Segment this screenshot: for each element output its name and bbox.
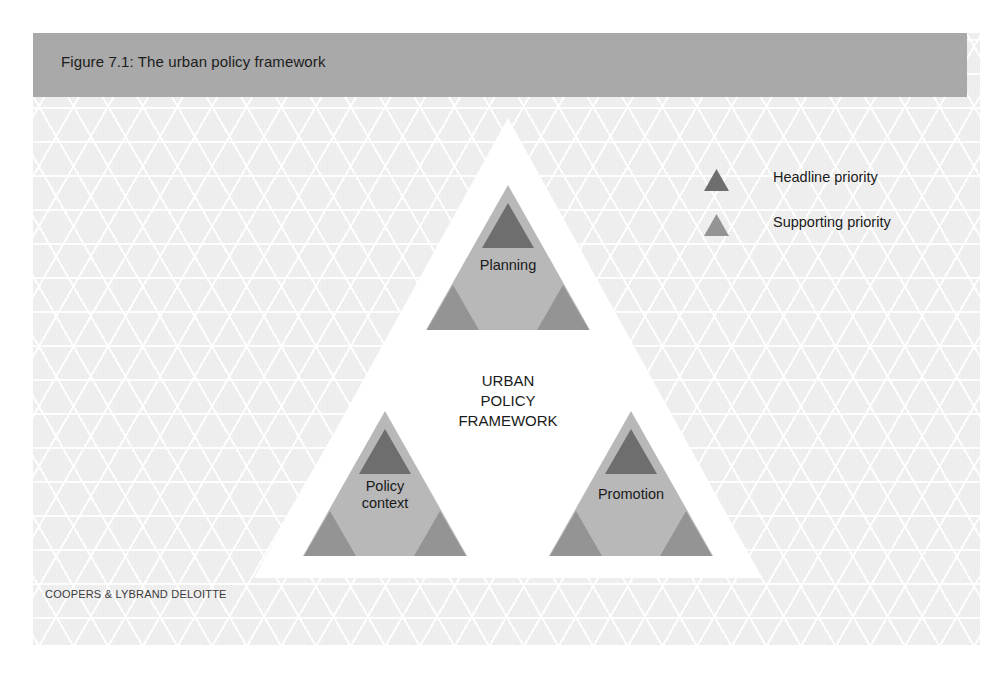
legend-item-headline: Headline priority: [703, 164, 953, 209]
triangle-icon: [703, 168, 730, 192]
figure-panel: Figure 7.1: The urban policy framework: [33, 33, 980, 645]
figure-header-bar: Figure 7.1: The urban policy framework: [33, 33, 967, 97]
source-credit: COOPERS & LYBRAND DELOITTE: [45, 588, 227, 600]
legend-item-supporting-label: Supporting priority: [773, 214, 891, 230]
figure-title: Figure 7.1: The urban policy framework: [61, 53, 325, 70]
urban-policy-framework-diagram: [33, 33, 980, 645]
legend: Headline priority Supporting priority: [703, 164, 953, 254]
legend-item-supporting: Supporting priority: [703, 209, 953, 254]
legend-item-headline-label: Headline priority: [773, 169, 878, 185]
framework-center-text: URBAN POLICY FRAMEWORK: [438, 371, 578, 431]
triangle-icon: [703, 213, 730, 237]
